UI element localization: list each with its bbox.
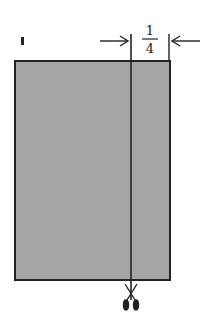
arrow-left-icon (172, 36, 200, 46)
fabric-panel (15, 61, 170, 280)
measurement-fraction: 1 4 (142, 23, 158, 56)
panel-marker (21, 37, 24, 45)
fraction-denominator: 4 (146, 41, 154, 56)
arrow-right-icon (100, 36, 128, 46)
cut-diagram: 1 4 (0, 0, 205, 335)
fraction-numerator: 1 (146, 23, 154, 38)
